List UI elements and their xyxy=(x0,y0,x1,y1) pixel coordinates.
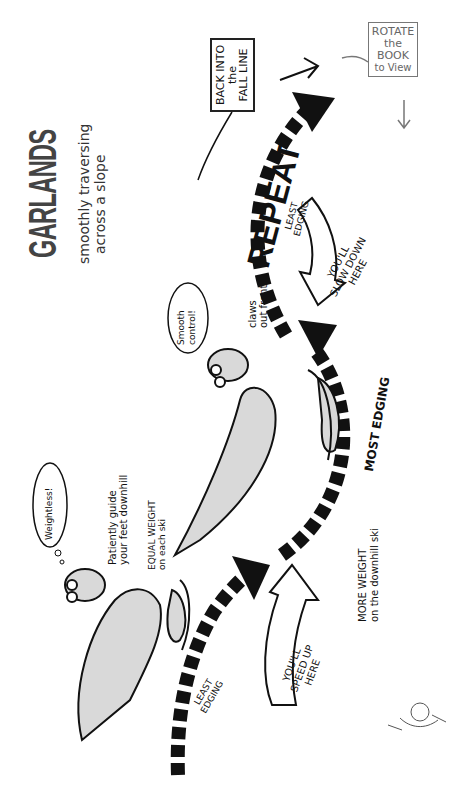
page-subtitle: smoothly traversing across a slope xyxy=(76,124,108,264)
rotate-the-book-box: ROTATE the BOOK to View xyxy=(368,22,418,77)
doodle-tumbling-skier xyxy=(388,703,446,730)
weightless-text: Weightless! xyxy=(44,488,54,540)
ski-path-dashes-2 xyxy=(282,350,343,555)
equal-weight-label: EQUAL WEIGHT on each ski xyxy=(147,500,167,570)
claws-out-front-label: claws out front xyxy=(247,285,269,328)
page-title: GARLANDS xyxy=(22,129,65,258)
fall-line-pointer xyxy=(280,58,318,80)
arrow-head-1 xyxy=(232,556,270,600)
rotate-connector-left xyxy=(342,56,368,62)
title-block: GARLANDS xyxy=(22,51,65,258)
back-into-fall-line-box: BACK INTO the FALL LINE xyxy=(210,38,255,112)
dino-left xyxy=(65,569,189,740)
connector-line xyxy=(198,112,232,180)
rotate-connector-down xyxy=(398,100,410,128)
arrow-head-2 xyxy=(298,320,337,358)
patiently-guide-label: Patiently guide your feet downhill xyxy=(107,475,129,565)
more-weight-label: MORE WEIGHT on the downhill ski xyxy=(357,528,381,622)
smooth-control-text: Smooth control! xyxy=(176,310,198,345)
